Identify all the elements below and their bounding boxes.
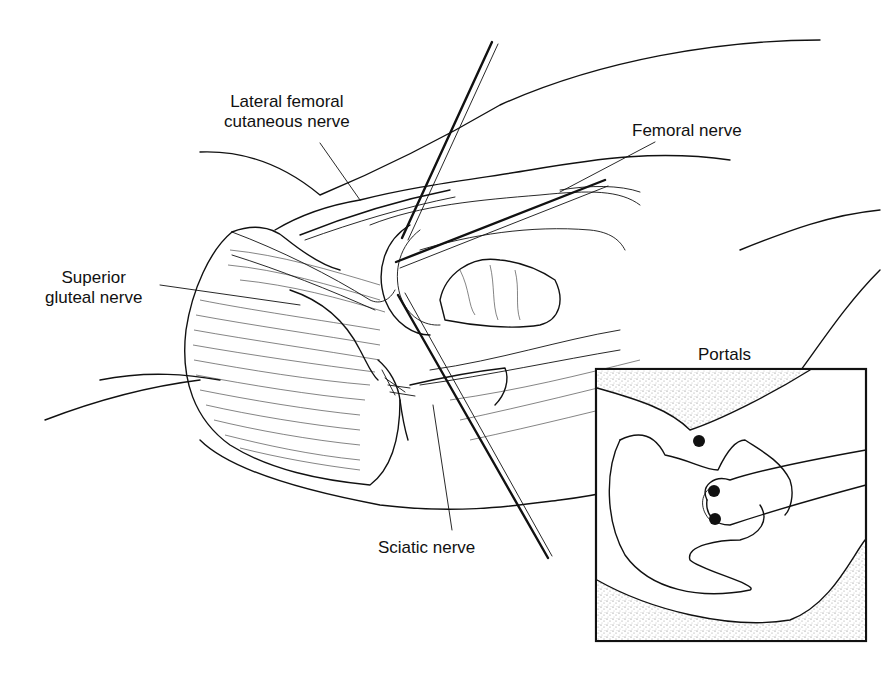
arthroscopy-instruments xyxy=(396,42,608,558)
anterior-portal-dot xyxy=(708,485,720,497)
portals-inset xyxy=(596,369,866,641)
illustration-canvas: Lateral femoral cutaneous nerve Femoral … xyxy=(0,0,889,673)
anatomy-drawing xyxy=(0,0,889,673)
nerves xyxy=(290,186,640,440)
label-sciatic-nerve: Sciatic nerve xyxy=(378,538,475,558)
gluteal-muscle xyxy=(185,227,400,485)
label-femoral-nerve: Femoral nerve xyxy=(632,121,742,141)
anterolateral-portal-dot xyxy=(693,435,705,447)
posterolateral-portal-dot xyxy=(709,513,721,525)
label-superior-gluteal-nerve: Superior gluteal nerve xyxy=(45,268,142,308)
label-lateral-femoral-cutaneous-nerve: Lateral femoral cutaneous nerve xyxy=(224,92,350,132)
inset-title: Portals xyxy=(698,345,751,365)
